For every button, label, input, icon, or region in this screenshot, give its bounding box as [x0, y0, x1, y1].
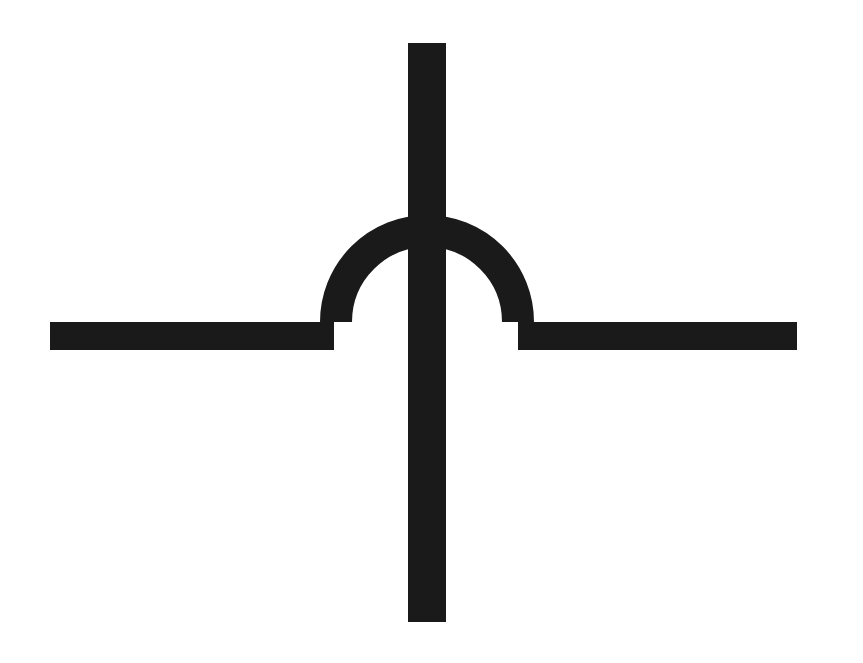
wire-crossover-hop-symbol	[0, 0, 863, 663]
horizontal-wire-right-segment-icon	[518, 322, 797, 350]
vertical-wire-icon	[408, 43, 446, 622]
figure-canvas	[0, 0, 863, 663]
horizontal-wire-left-segment-icon	[50, 322, 334, 350]
